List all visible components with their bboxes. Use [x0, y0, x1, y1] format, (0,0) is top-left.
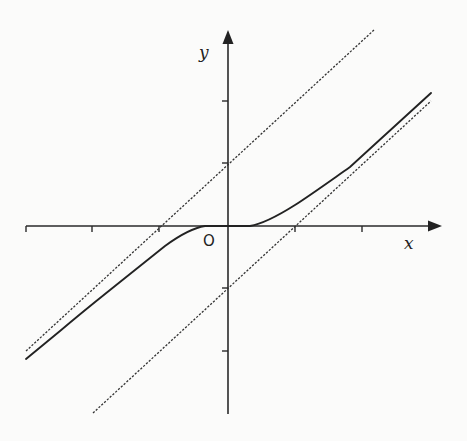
x-axis-arrow-icon [428, 221, 442, 232]
origin-label: O [203, 232, 215, 250]
graph-canvas: y x O [0, 0, 467, 441]
y-axis-arrow-icon [223, 30, 234, 44]
x-axis-label: x [404, 233, 414, 253]
asymptote-lower [93, 101, 431, 413]
asymptote-upper [26, 30, 374, 351]
y-axis-label: y [198, 42, 209, 62]
function-graph: y x O [0, 0, 467, 441]
